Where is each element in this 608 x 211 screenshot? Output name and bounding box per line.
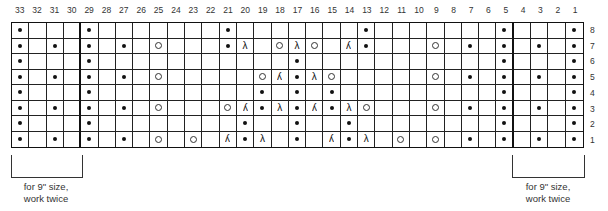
chart-cell bbox=[375, 70, 392, 86]
chart-cell bbox=[306, 23, 323, 39]
chart-cell bbox=[393, 132, 410, 148]
column-number: 31 bbox=[46, 5, 63, 19]
chart-cell bbox=[375, 116, 392, 132]
chart-cell bbox=[99, 132, 116, 148]
chart-cell: λ bbox=[272, 70, 289, 86]
row-numbers: 87654321 bbox=[590, 22, 604, 148]
chart-cell bbox=[272, 54, 289, 70]
purl-dot-icon bbox=[87, 106, 91, 110]
yarn-over-circle-icon bbox=[190, 136, 197, 143]
chart-cell bbox=[306, 132, 323, 148]
note-line-2: work twice bbox=[508, 193, 588, 205]
chart-cell bbox=[375, 101, 392, 117]
purl-dot-icon bbox=[537, 44, 541, 48]
chart-cell bbox=[64, 132, 81, 148]
chart-cell bbox=[150, 54, 167, 70]
ssk-icon: λ bbox=[243, 103, 248, 113]
chart-cell bbox=[358, 23, 375, 39]
row-number: 4 bbox=[590, 85, 604, 101]
chart-cell bbox=[462, 116, 479, 132]
chart-cell bbox=[375, 23, 392, 39]
purl-dot-icon bbox=[295, 59, 299, 63]
column-number: 18 bbox=[271, 5, 288, 19]
purl-dot-icon bbox=[87, 44, 91, 48]
chart-cell bbox=[496, 70, 513, 86]
repeat-bracket-left bbox=[11, 155, 83, 178]
chart-cell bbox=[64, 39, 81, 55]
purl-dot-icon bbox=[53, 106, 57, 110]
purl-dot-icon bbox=[87, 28, 91, 32]
purl-dot-icon bbox=[572, 121, 576, 125]
yarn-over-circle-icon bbox=[155, 42, 162, 49]
purl-dot-icon bbox=[572, 28, 576, 32]
chart-cell bbox=[393, 23, 410, 39]
row-number: 1 bbox=[590, 132, 604, 148]
chart-cell bbox=[410, 116, 427, 132]
chart-cell bbox=[289, 70, 306, 86]
purl-dot-icon bbox=[572, 44, 576, 48]
chart-cell bbox=[445, 101, 462, 117]
chart-cell bbox=[150, 85, 167, 101]
chart-cell bbox=[462, 70, 479, 86]
knitting-chart-grid: λλλλλλλλλλλλλ bbox=[11, 22, 584, 148]
k2tog-icon: λ bbox=[294, 41, 299, 51]
column-number: 17 bbox=[289, 5, 306, 19]
chart-cell bbox=[133, 101, 150, 117]
note-line-1: for 9" size, bbox=[6, 181, 86, 193]
purl-dot-icon bbox=[364, 44, 368, 48]
chart-cell bbox=[47, 39, 64, 55]
chart-cell bbox=[133, 116, 150, 132]
chart-cell bbox=[133, 132, 150, 148]
chart-cell bbox=[64, 101, 81, 117]
chart-cell bbox=[99, 85, 116, 101]
column-numbers: 3332313029282726252423222120191817161514… bbox=[11, 5, 584, 19]
column-number: 3 bbox=[532, 5, 549, 19]
chart-cell bbox=[445, 85, 462, 101]
purl-dot-icon bbox=[53, 44, 57, 48]
purl-dot-icon bbox=[226, 44, 230, 48]
purl-dot-icon bbox=[295, 137, 299, 141]
column-number: 15 bbox=[323, 5, 340, 19]
purl-dot-icon bbox=[295, 90, 299, 94]
chart-cell bbox=[116, 101, 133, 117]
chart-cell bbox=[133, 23, 150, 39]
chart-cell bbox=[496, 116, 513, 132]
column-number: 23 bbox=[185, 5, 202, 19]
column-number: 1 bbox=[567, 5, 584, 19]
purl-dot-icon bbox=[122, 75, 126, 79]
chart-cell bbox=[427, 23, 444, 39]
chart-cell bbox=[185, 101, 202, 117]
chart-cell bbox=[410, 132, 427, 148]
chart-cell bbox=[220, 101, 237, 117]
chart-cell bbox=[99, 54, 116, 70]
chart-cell bbox=[462, 101, 479, 117]
purl-dot-icon bbox=[502, 90, 506, 94]
chart-cell bbox=[323, 101, 340, 117]
purl-dot-icon bbox=[226, 28, 230, 32]
column-number: 20 bbox=[237, 5, 254, 19]
chart-cell bbox=[64, 23, 81, 39]
chart-cell bbox=[133, 39, 150, 55]
chart-cell bbox=[341, 70, 358, 86]
chart-cell bbox=[393, 85, 410, 101]
chart-cell bbox=[220, 70, 237, 86]
chart-cell bbox=[445, 39, 462, 55]
chart-cell bbox=[548, 132, 565, 148]
chart-cell bbox=[393, 54, 410, 70]
purl-dot-icon bbox=[18, 75, 22, 79]
chart-cell: λ bbox=[289, 39, 306, 55]
chart-cell bbox=[479, 116, 496, 132]
chart-cell bbox=[410, 85, 427, 101]
chart-cell bbox=[254, 85, 271, 101]
chart-cell bbox=[272, 132, 289, 148]
chart-cell bbox=[116, 23, 133, 39]
purl-dot-icon bbox=[572, 137, 576, 141]
chart-cell bbox=[323, 70, 340, 86]
chart-cell bbox=[289, 101, 306, 117]
column-number: 30 bbox=[63, 5, 80, 19]
chart-cell bbox=[12, 101, 29, 117]
chart-cell bbox=[445, 54, 462, 70]
chart-cell bbox=[81, 23, 98, 39]
chart-cell bbox=[531, 101, 548, 117]
chart-cell bbox=[168, 39, 185, 55]
